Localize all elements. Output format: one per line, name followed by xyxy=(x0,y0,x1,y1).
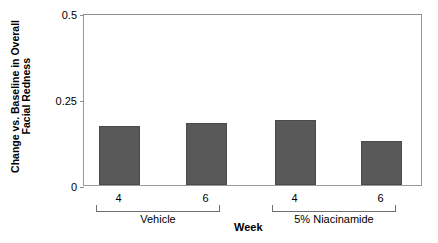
bar xyxy=(361,141,402,185)
group-bracket xyxy=(96,205,220,212)
bar xyxy=(186,123,227,185)
x-axis-title: Week xyxy=(234,221,263,233)
y-axis-tick-label: 0.25 xyxy=(56,95,77,107)
y-axis-title: Change vs. Baseline in Overall Facial Re… xyxy=(0,0,42,192)
y-axis-tick-mark xyxy=(80,101,84,102)
y-axis-tick: 0.25 xyxy=(56,95,84,107)
x-axis-tick-label: 6 xyxy=(377,192,383,204)
y-axis-tick-label: 0 xyxy=(71,181,77,193)
x-axis-tick-label: 4 xyxy=(291,192,297,204)
y-axis-tick-label: 0.5 xyxy=(62,9,77,21)
y-axis-title-line-1: Change vs. Baseline in Overall xyxy=(10,20,21,173)
group-bracket xyxy=(272,205,396,212)
y-axis-tick: 0.5 xyxy=(62,9,84,21)
bar xyxy=(275,120,316,185)
x-axis-tick-label: 4 xyxy=(115,192,121,204)
x-axis-tick-label: 6 xyxy=(202,192,208,204)
y-axis-title-line-2: Facial Redness xyxy=(21,58,32,134)
group-label: Vehicle xyxy=(96,213,220,225)
y-axis-tick-mark xyxy=(80,15,84,16)
plot-area: 00.250.5 xyxy=(83,14,422,186)
y-axis-tick: 0 xyxy=(71,181,84,193)
chart-figure: Change vs. Baseline in Overall Facial Re… xyxy=(0,0,438,243)
bar xyxy=(99,126,140,185)
y-axis-tick-mark xyxy=(80,187,84,188)
group-label: 5% Niacinamide xyxy=(272,213,396,225)
